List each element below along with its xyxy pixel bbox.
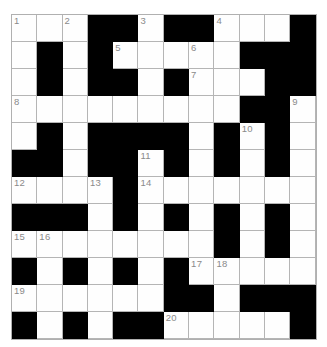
letter-cell[interactable] [63,123,88,150]
letter-cell[interactable]: 4 [214,15,239,42]
letter-cell[interactable]: 3 [138,15,163,42]
letter-cell[interactable] [37,312,62,339]
letter-cell[interactable] [240,204,265,231]
letter-cell[interactable] [265,312,290,339]
letter-cell[interactable]: 6 [189,42,214,69]
letter-cell[interactable] [63,231,88,258]
letter-cell[interactable]: 11 [138,150,163,177]
letter-cell[interactable] [138,69,163,96]
letter-cell[interactable]: 1 [12,15,37,42]
clue-number: 13 [90,177,101,189]
letter-cell[interactable] [63,42,88,69]
letter-cell[interactable] [189,312,214,339]
letter-cell[interactable] [12,69,37,96]
letter-cell[interactable] [88,96,113,123]
letter-cell[interactable] [113,285,138,312]
letter-cell[interactable]: 2 [63,15,88,42]
letter-cell[interactable] [63,69,88,96]
letter-cell[interactable] [240,258,265,285]
letter-cell[interactable] [88,231,113,258]
clue-number: 1 [14,15,20,27]
letter-cell[interactable] [240,69,265,96]
letter-cell[interactable] [290,123,315,150]
block-cell [88,150,113,177]
letter-cell[interactable]: 15 [12,231,37,258]
letter-cell[interactable] [63,177,88,204]
block-cell [63,258,88,285]
letter-cell[interactable] [138,204,163,231]
block-cell [63,312,88,339]
letter-cell[interactable]: 9 [290,96,315,123]
letter-cell[interactable]: 20 [164,312,189,339]
letter-cell[interactable] [290,150,315,177]
letter-cell[interactable] [164,42,189,69]
letter-cell[interactable] [63,96,88,123]
letter-cell[interactable] [88,285,113,312]
letter-cell[interactable] [138,42,163,69]
letter-cell[interactable]: 5 [113,42,138,69]
letter-cell[interactable] [290,258,315,285]
letter-cell[interactable] [63,285,88,312]
letter-cell[interactable] [138,96,163,123]
letter-cell[interactable] [240,15,265,42]
letter-cell[interactable] [240,177,265,204]
block-cell [138,123,163,150]
letter-cell[interactable] [290,231,315,258]
letter-cell[interactable] [189,96,214,123]
letter-cell[interactable] [138,285,163,312]
letter-cell[interactable] [189,204,214,231]
letter-cell[interactable] [189,177,214,204]
letter-cell[interactable] [88,204,113,231]
letter-cell[interactable] [265,177,290,204]
letter-cell[interactable] [265,258,290,285]
letter-cell[interactable] [214,69,239,96]
letter-cell[interactable] [37,15,62,42]
letter-cell[interactable] [189,231,214,258]
letter-cell[interactable] [214,177,239,204]
letter-cell[interactable] [240,312,265,339]
letter-cell[interactable] [37,177,62,204]
letter-cell[interactable] [113,96,138,123]
block-cell [240,42,265,69]
letter-cell[interactable]: 10 [240,123,265,150]
letter-cell[interactable]: 18 [214,258,239,285]
letter-cell[interactable]: 19 [12,285,37,312]
letter-cell[interactable] [138,258,163,285]
clue-number: 8 [14,96,20,108]
letter-cell[interactable] [290,204,315,231]
letter-cell[interactable] [37,258,62,285]
letter-cell[interactable]: 13 [88,177,113,204]
letter-cell[interactable] [138,231,163,258]
letter-cell[interactable] [12,42,37,69]
letter-cell[interactable] [37,285,62,312]
letter-cell[interactable] [214,42,239,69]
letter-cell[interactable] [214,312,239,339]
letter-cell[interactable]: 8 [12,96,37,123]
crossword-grid[interactable]: 1234567891011121314151617181920 [11,14,317,340]
letter-cell[interactable]: 7 [189,69,214,96]
letter-cell[interactable]: 16 [37,231,62,258]
letter-cell[interactable] [290,177,315,204]
letter-cell[interactable] [88,312,113,339]
letter-cell[interactable] [240,150,265,177]
letter-cell[interactable] [164,177,189,204]
letter-cell[interactable] [88,258,113,285]
block-cell [12,258,37,285]
letter-cell[interactable] [189,150,214,177]
block-cell [113,177,138,204]
letter-cell[interactable] [12,123,37,150]
letter-cell[interactable] [37,96,62,123]
letter-cell[interactable] [214,285,239,312]
letter-cell[interactable] [265,15,290,42]
letter-cell[interactable] [214,96,239,123]
letter-cell[interactable] [164,231,189,258]
letter-cell[interactable]: 14 [138,177,163,204]
letter-cell[interactable]: 17 [189,258,214,285]
letter-cell[interactable] [240,231,265,258]
letter-cell[interactable] [164,96,189,123]
letter-cell[interactable] [63,150,88,177]
block-cell [113,150,138,177]
letter-cell[interactable] [113,231,138,258]
letter-cell[interactable] [189,123,214,150]
letter-cell[interactable]: 12 [12,177,37,204]
